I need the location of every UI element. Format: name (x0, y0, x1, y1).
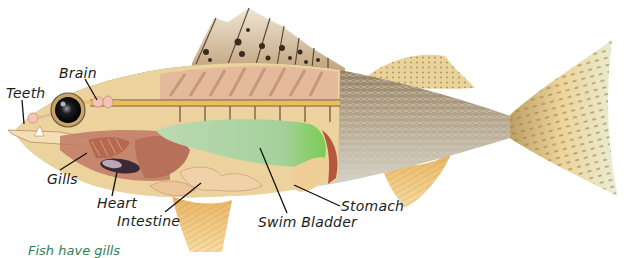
label-teeth: Teeth (6, 86, 45, 100)
caption: Fish have gills (28, 244, 120, 257)
eye (51, 93, 85, 127)
tail-fin (505, 40, 618, 196)
label-swim-bladder: Swim Bladder (258, 215, 357, 229)
label-intestine: Intestine (117, 214, 180, 228)
olfactory-bulb (28, 113, 38, 123)
label-heart: Heart (97, 196, 137, 210)
label-stomach: Stomach (341, 199, 404, 213)
label-gills: Gills (47, 172, 78, 186)
label-brain: Brain (59, 66, 97, 80)
pelvic-fin (172, 196, 232, 252)
